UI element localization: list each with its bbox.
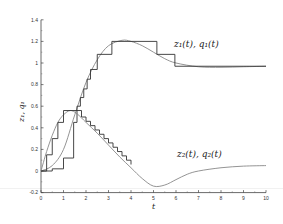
y-tick-label: 1	[35, 60, 38, 66]
y-axis-title: z₁, q₁	[17, 101, 26, 123]
axes: 012345678910-0.200.20.40.60.811.21.4	[29, 17, 269, 201]
x-tick-label: 3	[107, 195, 110, 201]
x-tick-label: 8	[220, 195, 223, 201]
x-axis-title: t	[152, 202, 156, 211]
x-tick-label: 6	[175, 195, 178, 201]
y-tick-label: 1.4	[31, 17, 38, 23]
series-z2t	[41, 111, 266, 187]
y-tick-label: 0	[35, 168, 38, 174]
y-tick-label: 0.6	[31, 103, 38, 109]
x-tick-label: 0	[40, 195, 43, 201]
y-tick-label: 0.4	[31, 125, 38, 131]
series-group	[41, 40, 266, 187]
chart: 012345678910-0.200.20.40.60.811.21.4 z₁(…	[0, 0, 283, 224]
y-tick-label: 0.2	[31, 146, 38, 152]
series-q2t	[41, 111, 131, 171]
x-tick-label: 1	[62, 195, 65, 201]
x-tick-label: 9	[242, 195, 245, 201]
y-tick-label: 0.8	[31, 81, 38, 87]
x-tick-label: 5	[152, 195, 155, 201]
x-tick-label: 10	[263, 195, 269, 201]
label-z2-q2: z₂(t), q₂(t)	[176, 149, 222, 159]
label-z1-q1: z₁(t), q₁(t)	[173, 39, 219, 49]
y-tick-label: -0.2	[29, 189, 38, 195]
x-tick-label: 4	[130, 195, 133, 201]
x-tick-label: 7	[197, 195, 200, 201]
x-tick-label: 2	[85, 195, 88, 201]
series-q1t	[41, 41, 266, 171]
series-z1t	[41, 40, 266, 171]
y-tick-label: 1.2	[31, 38, 38, 44]
